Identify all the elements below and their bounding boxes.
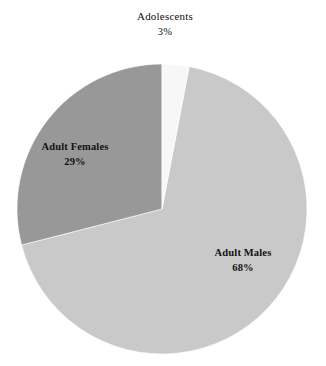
slice-label-adult-females: Adult Females: [42, 141, 109, 152]
slice-label-adolescents: Adolescents: [137, 10, 193, 22]
pie-slices-group: [17, 64, 307, 354]
pie-chart-canvas: Adolescents 3% Adult Females 29% Adult M…: [0, 0, 326, 366]
slice-value-adult-males: 68%: [232, 262, 253, 273]
pie-chart-figure: Adolescents 3% Adult Females 29% Adult M…: [0, 0, 326, 366]
slice-value-adult-females: 29%: [64, 156, 85, 167]
slice-value-adolescents: 3%: [158, 26, 172, 37]
slice-label-adult-males: Adult Males: [215, 247, 272, 258]
